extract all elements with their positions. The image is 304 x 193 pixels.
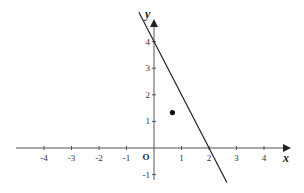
x-tick-label: -2: [95, 153, 103, 163]
x-tick-label: 3: [234, 153, 239, 163]
y-tick-label: 2: [146, 90, 151, 100]
axes: [16, 19, 291, 180]
y-axis-label: y: [143, 7, 151, 21]
x-tick-label: -4: [40, 153, 48, 163]
x-tick-label: 2: [207, 153, 212, 163]
labels: xyO: [142, 7, 289, 165]
x-tick-label: 1: [179, 153, 184, 163]
x-tick-label: -1: [123, 153, 131, 163]
data-point: [170, 110, 175, 115]
y-tick-label: 1: [146, 116, 151, 126]
y-tick-label: 4: [146, 37, 151, 47]
y-tick-label: 3: [146, 63, 151, 73]
coordinate-plane: -4-3-2-11234-11234 xyO: [0, 0, 304, 193]
x-tick-label: 4: [262, 153, 267, 163]
y-axis-arrow-icon: [150, 19, 158, 27]
x-axis-label: x: [282, 151, 289, 165]
x-tick-label: -3: [68, 153, 76, 163]
origin-label: O: [142, 152, 149, 162]
y-tick-label: -1: [143, 170, 151, 180]
